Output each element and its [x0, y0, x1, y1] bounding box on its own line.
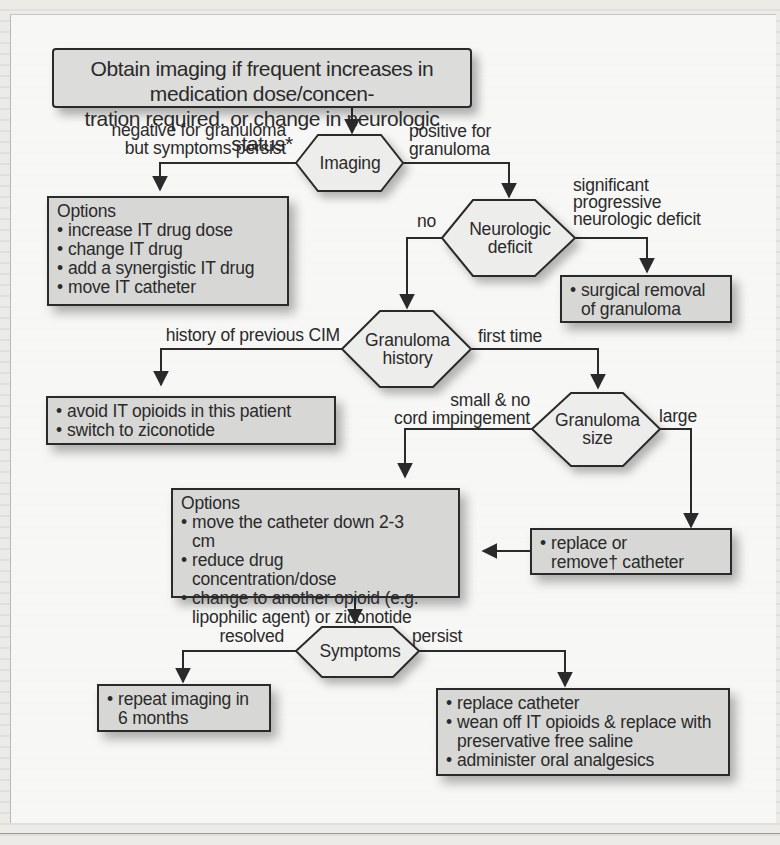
decision-history: Granuloma history [350, 321, 465, 377]
options-box-2-item: change to another opioid (e.g. lipophili… [181, 589, 428, 627]
persist-actions-item: administer oral analgesics [446, 751, 720, 770]
start-line-1: Obtain imaging if frequent increases in … [62, 56, 462, 106]
decision-imaging: Imaging [300, 145, 400, 181]
edge-label-resolved-text: resolved [219, 626, 284, 646]
decision-history-line-1: Granuloma [365, 331, 450, 349]
edge-label-negative-line-1: negative for granuloma [98, 121, 286, 139]
surgical-removal-box: surgical removal of granuloma [560, 275, 732, 323]
decision-size: Granuloma size [540, 401, 655, 457]
edge-label-first-time-text: first time [478, 326, 542, 346]
edge-label-first-time: first time [478, 327, 542, 345]
replace-remove-item: replace or remove† catheter [540, 534, 690, 572]
persist-actions-item: wean off IT opioids & replace with prese… [446, 713, 720, 751]
surgical-removal-item: surgical removal of granuloma [570, 281, 708, 319]
avoid-opioids-item: avoid IT opioids in this patient [56, 402, 326, 421]
edge-label-history-cim: history of previous CIM [140, 326, 340, 344]
options-box-1-item: increase IT drug dose [57, 221, 279, 240]
decision-neuro-line-2: deficit [488, 238, 532, 256]
options-box-1-title: Options [57, 202, 279, 221]
persist-actions-box: replace catheter wean off IT opioids & r… [436, 688, 730, 776]
edge-label-persist-text: persist [412, 626, 462, 646]
repeat-imaging-box: repeat imaging in 6 months [97, 684, 271, 732]
edge-label-persist: persist [412, 627, 462, 645]
decision-history-line-2: history [382, 349, 432, 367]
edge-label-significant: significant progressive neurologic defic… [573, 177, 701, 228]
edge-label-negative: negative for granuloma but symptoms pers… [98, 121, 286, 157]
decision-imaging-label: Imaging [320, 154, 381, 172]
edge-label-small-line-1: small & no [330, 391, 530, 409]
persist-actions-item: replace catheter [446, 694, 720, 713]
decision-symptoms-label: Symptoms [319, 642, 400, 660]
edge-label-large-text: large [659, 406, 697, 426]
edge-label-no-text: no [417, 211, 436, 231]
options-box-1: Options increase IT drug dose change IT … [47, 196, 289, 306]
options-box-1-item: add a synergistic IT drug [57, 259, 279, 278]
options-box-2-title: Options [181, 494, 428, 513]
edge-label-history-cim-text: history of previous CIM [166, 325, 340, 345]
decision-neuro: Neurologic deficit [450, 210, 570, 266]
edge-label-small: small & no cord impingement [330, 391, 530, 427]
edge-label-positive-line-2: granuloma [409, 140, 491, 158]
options-box-2: Options move the catheter down 2-3 cm re… [171, 488, 460, 598]
decision-size-line-1: Granuloma [555, 411, 640, 429]
edge-label-significant-line-3: neurologic deficit [573, 211, 701, 228]
edge-label-resolved: resolved [200, 627, 284, 645]
edge-label-small-line-2: cord impingement [330, 409, 530, 427]
decision-neuro-line-1: Neurologic [469, 220, 551, 238]
options-box-1-item: move IT catheter [57, 278, 279, 297]
avoid-opioids-box: avoid IT opioids in this patient switch … [46, 396, 336, 445]
start-box: Obtain imaging if frequent increases in … [52, 48, 472, 108]
replace-remove-box: replace or remove† catheter [530, 528, 732, 575]
options-box-1-item: change IT drug [57, 240, 279, 259]
decision-symptoms: Symptoms [305, 633, 415, 669]
avoid-opioids-item: switch to ziconotide [56, 421, 326, 440]
edge-label-positive: positive for granuloma [409, 122, 491, 158]
edge-label-no: no [417, 212, 436, 230]
edge-label-large: large [659, 407, 697, 425]
repeat-imaging-item: repeat imaging in 6 months [107, 690, 249, 728]
decision-size-line-2: size [582, 429, 612, 447]
options-box-2-item: move the catheter down 2-3 cm [181, 513, 428, 551]
edge-label-positive-line-1: positive for [409, 122, 491, 140]
edge-label-negative-line-2: but symptoms persist [98, 139, 286, 157]
options-box-2-item: reduce drug concentration/dose [181, 551, 428, 589]
